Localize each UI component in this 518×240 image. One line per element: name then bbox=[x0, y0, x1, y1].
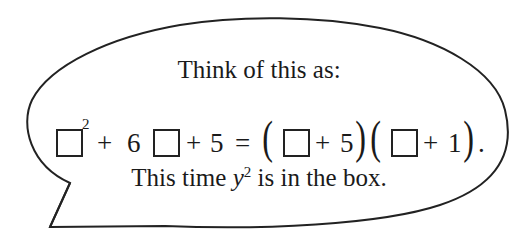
placeholder-box bbox=[391, 129, 418, 157]
coefficient: 6 bbox=[127, 128, 141, 159]
speech-bubble bbox=[0, 0, 518, 240]
right-paren: ) bbox=[355, 111, 366, 164]
constant: 5 bbox=[210, 128, 224, 159]
plus-sign: + bbox=[97, 128, 112, 159]
placeholder-box bbox=[153, 129, 180, 157]
factor2-constant: 1 bbox=[448, 128, 462, 159]
equals-sign: = bbox=[235, 128, 250, 159]
bubble-footer: This time y2 is in the box. bbox=[0, 164, 518, 192]
factor1-constant: 5 bbox=[340, 128, 354, 159]
left-paren: ( bbox=[262, 111, 273, 164]
plus-sign: + bbox=[315, 128, 330, 159]
right-paren: ) bbox=[463, 111, 474, 164]
footer-prefix: This time bbox=[131, 164, 232, 191]
footer-suffix: is in the box. bbox=[251, 164, 386, 191]
left-paren: ( bbox=[370, 111, 381, 164]
box-exponent: 2 bbox=[82, 116, 90, 133]
bubble-heading: Think of this as: bbox=[0, 56, 518, 84]
placeholder-box bbox=[56, 129, 83, 157]
placeholder-box bbox=[283, 129, 310, 157]
period: . bbox=[478, 128, 485, 159]
plus-sign: + bbox=[186, 128, 201, 159]
plus-sign: + bbox=[423, 128, 438, 159]
footer-variable: y bbox=[233, 164, 244, 191]
